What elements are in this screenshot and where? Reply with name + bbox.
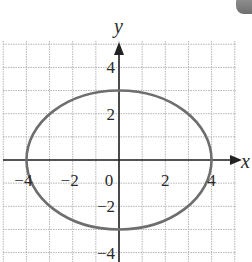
ellipse-plot: −4−202442−2−4 x y bbox=[0, 0, 252, 262]
y-tick-label: 4 bbox=[107, 58, 116, 77]
y-axis-label: y bbox=[112, 15, 123, 38]
x-tick-label: −2 bbox=[61, 171, 79, 190]
x-axis-label: x bbox=[240, 150, 250, 172]
x-tick-label: 0 bbox=[105, 171, 114, 190]
x-tick-label: −4 bbox=[14, 171, 33, 190]
y-tick-label: −4 bbox=[97, 244, 116, 262]
y-tick-label: −2 bbox=[97, 197, 115, 216]
x-tick-label: 4 bbox=[207, 171, 216, 190]
y-tick-label: 2 bbox=[107, 105, 116, 124]
x-tick-label: 2 bbox=[161, 171, 170, 190]
corner-tab bbox=[236, 0, 252, 14]
